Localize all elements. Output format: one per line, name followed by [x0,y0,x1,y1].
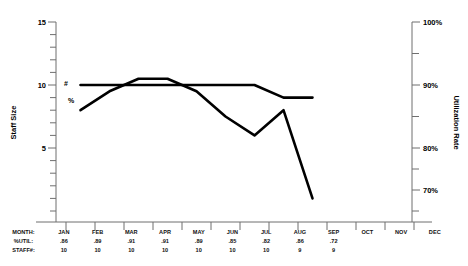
cell-month-nov: NOV [384,228,418,237]
left-axis-major-ticks [48,22,56,148]
row-header-utilization: %UTIL: [0,237,47,246]
cell-month-feb: FEB [81,228,115,237]
cell-month-oct: OCT [350,228,384,237]
cell-staff-mar: 10 [114,246,148,255]
cell-staff-feb: 10 [81,246,115,255]
cell-staff-jul: 10 [249,246,283,255]
right-tick-label-100: 100% [423,18,451,27]
right-tick-label-70: 70% [423,186,451,195]
left-tick-label-10: 10 [24,81,46,90]
right-tick-label-80: 80% [423,144,451,153]
cell-staff-may: 10 [182,246,216,255]
cell-staff-oct [350,246,384,255]
cell-util-sep: .72 [317,237,351,246]
cell-util-jul: .82 [249,237,283,246]
row-header-staff: STAFF#: [0,246,47,255]
cell-staff-dec [418,246,452,255]
cell-staff-jan: 10 [47,246,81,255]
table-spacer [452,246,468,255]
table-row-staff: STAFF#: 10 10 10 10 10 10 10 9 9 [0,246,468,255]
series-tag-utilization: % [68,97,74,104]
left-axis-minor-ticks [50,35,56,211]
table-row-utilization: %UTIL: .86 .89 .91 .91 .89 .85 .82 .86 .… [0,237,468,246]
table-spacer [452,237,468,246]
data-table: MONTH: JAN FEB MAR APR MAY JUN JUL AUG S… [0,228,468,255]
cell-month-may: MAY [182,228,216,237]
cell-staff-apr: 10 [148,246,182,255]
cell-month-jan: JAN [47,228,81,237]
series-tag-staff: # [64,80,68,87]
cell-util-mar: .91 [114,237,148,246]
cell-staff-sep: 9 [317,246,351,255]
cell-util-nov [384,237,418,246]
cell-month-mar: MAR [114,228,148,237]
cell-staff-nov [384,246,418,255]
cell-util-may: .89 [182,237,216,246]
right-tick-label-90: 90% [423,81,451,90]
cell-staff-jun: 10 [216,246,250,255]
cell-util-oct [350,237,384,246]
right-axis-minor-ticks [412,54,419,212]
chart-container: 15 10 5 100% 90% 80% 70% Staff Size Util… [0,0,468,266]
cell-month-sep: SEP [317,228,351,237]
table-spacer [452,228,468,237]
table-row-month: MONTH: JAN FEB MAR APR MAY JUN JUL AUG S… [0,228,468,237]
right-axis-title: Utilization Rate [452,88,461,158]
cell-util-jun: .85 [216,237,250,246]
cell-month-dec: DEC [418,228,452,237]
chart-plot-area [0,0,468,266]
cell-util-dec [418,237,452,246]
row-header-month: MONTH: [0,228,47,237]
left-axis-title: Staff Size [9,93,18,153]
cell-month-jun: JUN [216,228,250,237]
cell-month-jul: JUL [249,228,283,237]
series-line-utilization [81,79,313,199]
cell-util-jan: .86 [47,237,81,246]
cell-month-aug: AUG [283,228,317,237]
left-tick-label-5: 5 [24,144,46,153]
cell-util-feb: .89 [81,237,115,246]
cell-month-apr: APR [148,228,182,237]
left-tick-label-15: 15 [24,18,46,27]
right-axis-major-ticks [412,22,420,190]
cell-util-apr: .91 [148,237,182,246]
cell-util-aug: .86 [283,237,317,246]
cell-staff-aug: 9 [283,246,317,255]
